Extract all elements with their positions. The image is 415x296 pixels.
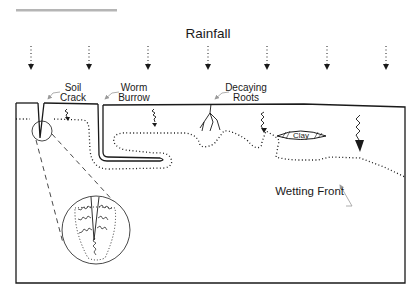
clay-lens: Clay [277,131,326,140]
rainfall-title: Rainfall [185,26,230,41]
decaying-roots [200,104,220,131]
header-bar [16,9,117,12]
soil-crack-label-2: Crack [60,92,87,103]
infiltration-diagram: Rainfall Soil Crack Worm Burrow Decaying… [0,0,415,296]
rain-arrowheads [28,64,389,70]
wetting-front-label: Wetting Front [275,185,345,197]
rain-arrows [31,46,386,64]
clay-label: Clay [293,131,309,140]
decaying-roots-label-2: Roots [233,92,259,103]
enlarged-crack-detail [62,196,130,264]
wetting-front-line [16,119,405,177]
worm-burrow-label-2: Burrow [118,92,150,103]
